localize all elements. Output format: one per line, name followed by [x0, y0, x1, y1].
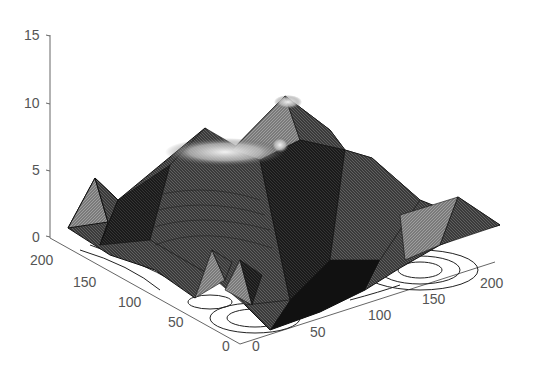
x-tick-200: 200: [480, 275, 504, 291]
x-tick-150: 150: [422, 291, 446, 307]
x-tick-0: 0: [252, 338, 260, 354]
x-tick-100: 100: [368, 307, 392, 323]
y-tick-50: 50: [168, 314, 184, 330]
y-tick-0: 0: [222, 338, 230, 354]
z-tick-10: 10: [24, 95, 40, 111]
z-axis: 15 10 5 0: [24, 27, 50, 245]
z-tick-0: 0: [32, 229, 40, 245]
y-tick-150: 150: [73, 274, 97, 290]
z-tick-15: 15: [24, 27, 40, 43]
x-tick-50: 50: [310, 324, 326, 340]
surface-plot: 15 10 5 0 200 150 100 50 0 0 50 100 150 …: [0, 0, 535, 379]
z-tick-5: 5: [32, 162, 40, 178]
y-tick-100: 100: [118, 294, 142, 310]
y-tick-200: 200: [30, 252, 54, 268]
